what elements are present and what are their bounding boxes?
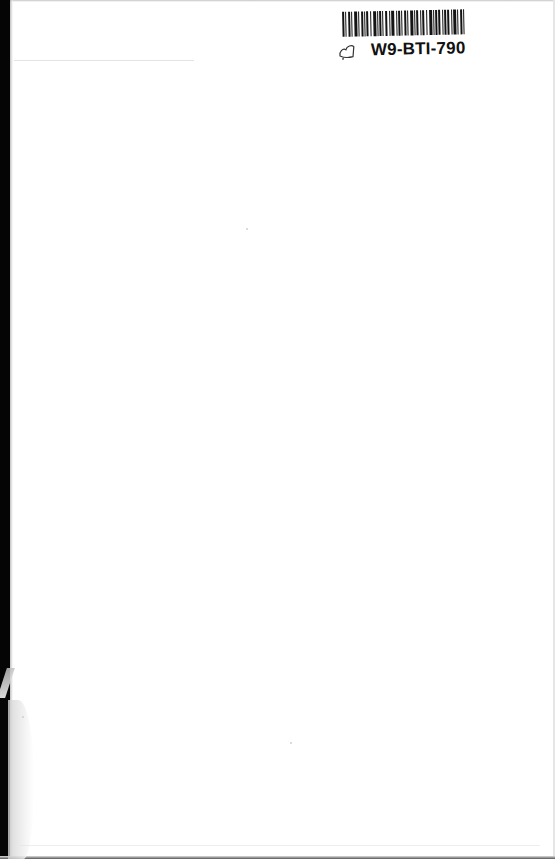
barcode-space <box>464 9 467 34</box>
scan-speck <box>246 228 248 230</box>
bleed-through-line <box>14 60 194 61</box>
label-row: W9-BTI-790 <box>337 37 466 62</box>
top-page-edge <box>0 0 555 2</box>
scan-speck <box>290 742 292 744</box>
barcode <box>342 9 466 37</box>
page-wear-marks <box>8 700 34 859</box>
scan-speck <box>22 716 24 718</box>
library-barcode-label: W9-BTI-790 <box>336 4 507 64</box>
barcode-identifier: W9-BTI-790 <box>371 38 466 60</box>
handwritten-mark-icon <box>337 42 357 62</box>
bleed-through-line <box>20 845 540 846</box>
